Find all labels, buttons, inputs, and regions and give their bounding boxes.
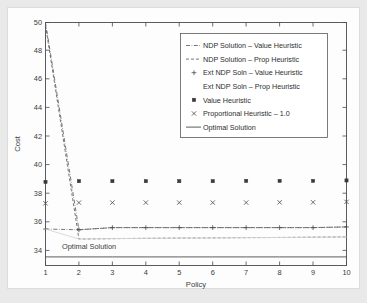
legend-item-0[interactable]: NDP Solution – Value Heuristic: [186, 41, 302, 50]
optimal-solution-annotation: Optimal Solution: [62, 242, 116, 251]
y-axis-label: Cost: [13, 135, 22, 152]
legend-item-2[interactable]: Ext NDP Soln – Value Heuristic: [192, 68, 303, 77]
x-tick-label-5: 5: [177, 268, 181, 277]
legend-label-6: Optimal Solution: [203, 123, 256, 132]
x-tick-label-4: 4: [144, 268, 148, 277]
series-5: [43, 200, 348, 206]
legend-label-2: Ext NDP Soln – Value Heuristic: [203, 68, 303, 77]
legend-label-4: Value Heuristic: [203, 96, 251, 105]
x-tick-label-10: 10: [342, 268, 350, 277]
x-tick-label-8: 8: [278, 268, 282, 277]
y-tick-label-38: 38: [34, 189, 42, 198]
y-tick-label-48: 48: [34, 46, 42, 55]
y-tick-label-40: 40: [34, 160, 42, 169]
legend-label-5: Proportional Heuristic – 1.0: [203, 109, 290, 118]
y-tick-label-50: 50: [34, 18, 42, 27]
y-tick-label-44: 44: [34, 103, 42, 112]
cost-vs-policy-chart: 34 36 38 40 42 44 46 48 50: [0, 0, 367, 303]
figure-page: 34 36 38 40 42 44 46 48 50: [0, 0, 367, 303]
y-tick-label-34: 34: [34, 246, 42, 255]
chart-legend[interactable]: NDP Solution – Value HeuristicNDP Soluti…: [181, 34, 328, 138]
y-tick-label-42: 42: [34, 132, 42, 141]
legend-label-3: Ext NDP Soln – Prop Heuristic: [203, 82, 300, 91]
legend-label-0: NDP Solution – Value Heuristic: [203, 41, 302, 50]
series-4: [44, 179, 348, 184]
legend-item-3[interactable]: Ext NDP Soln – Prop Heuristic: [203, 82, 300, 91]
y-tick-label-46: 46: [34, 74, 42, 83]
x-tick-label-2: 2: [77, 268, 81, 277]
y-axis-tick-labels: 34 36 38 40 42 44 46 48 50: [34, 18, 42, 255]
legend-item-1[interactable]: NDP Solution – Prop Heuristic: [186, 55, 300, 64]
x-tick-label-9: 9: [311, 268, 315, 277]
series-2: [43, 225, 349, 233]
series-3: [46, 229, 347, 239]
y-tick-label-36: 36: [34, 217, 42, 226]
x-axis-label: Policy: [186, 280, 206, 289]
x-tick-label-7: 7: [244, 268, 248, 277]
x-tick-label-3: 3: [110, 268, 114, 277]
x-tick-label-1: 1: [43, 268, 47, 277]
x-tick-label-6: 6: [211, 268, 215, 277]
legend-label-1: NDP Solution – Prop Heuristic: [203, 55, 300, 64]
x-axis-tick-labels: 1 2 3 4 5 6 7 8 9 10: [43, 268, 350, 277]
legend-item-5[interactable]: Proportional Heuristic – 1.0: [192, 109, 290, 118]
legend-glyph-square-icon: [192, 98, 195, 101]
